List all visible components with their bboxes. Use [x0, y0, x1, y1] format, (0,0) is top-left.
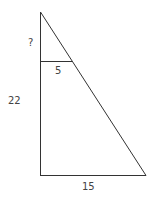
inner-base-label: 5 — [55, 66, 61, 76]
unknown-segment-label: ? — [28, 38, 33, 48]
outer-base-label: 15 — [82, 182, 95, 192]
triangle-figure — [0, 0, 153, 199]
lower-segment-label: 22 — [8, 96, 21, 106]
hypotenuse — [41, 12, 147, 176]
triangle-diagram: ? 5 22 15 — [0, 0, 153, 199]
